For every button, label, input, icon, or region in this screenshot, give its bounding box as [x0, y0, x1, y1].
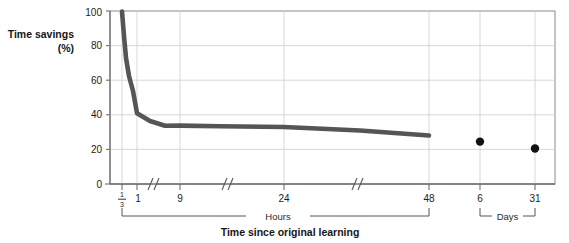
x-tick-label-31: 31	[529, 193, 541, 204]
data-point-6-days	[476, 137, 484, 145]
fraction-denominator: 3	[120, 201, 124, 208]
group-label-hours: Hours	[265, 211, 291, 222]
forgetting-curve-figure: 0 20 40 60 80 100 Time savings (%)	[0, 0, 569, 243]
y-tick-label-80: 80	[91, 40, 103, 51]
fraction-numerator: 1	[120, 191, 124, 198]
x-axis-title: Time since original learning	[221, 226, 360, 238]
group-label-days: Days	[497, 211, 519, 222]
chart-background	[0, 0, 569, 243]
chart-svg: 0 20 40 60 80 100 Time savings (%)	[0, 0, 569, 243]
y-tick-label-20: 20	[91, 144, 103, 155]
data-point-31-days	[531, 144, 539, 152]
x-tick-label-48: 48	[423, 193, 435, 204]
y-tick-label-60: 60	[91, 75, 103, 86]
y-tick-label-0: 0	[96, 179, 102, 190]
x-tick-label-6: 6	[477, 193, 483, 204]
x-tick-label-1: 1	[135, 193, 141, 204]
y-axis-title: Time savings	[8, 28, 74, 40]
y-axis-unit: (%)	[58, 42, 74, 54]
y-tick-label-100: 100	[85, 7, 102, 18]
x-tick-label-9: 9	[177, 193, 183, 204]
y-tick-label-40: 40	[91, 109, 103, 120]
x-tick-label-24: 24	[278, 193, 290, 204]
